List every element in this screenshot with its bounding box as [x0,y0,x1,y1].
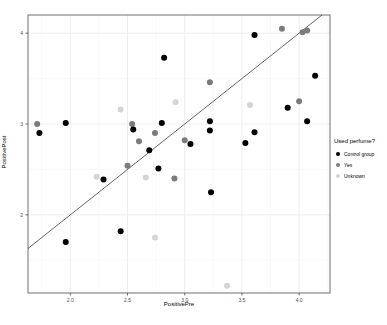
data-point [312,73,318,79]
data-point [118,106,124,112]
x-axis-title: PositivePre [28,301,330,307]
data-point [207,118,213,124]
data-point [143,175,149,181]
data-point [146,147,152,153]
identity-reference-line [28,15,322,248]
data-point [152,235,158,241]
data-point [285,105,291,111]
legend-item-unknown: Unknown [334,170,387,181]
data-point [247,102,253,108]
legend-item-yes: Yes [334,159,387,170]
data-point [125,163,131,169]
data-point [130,126,136,132]
y-tick-label: 2 [20,212,23,218]
yes-key-dot-icon [336,163,340,167]
legend-item-control-group: Control group [334,148,387,159]
data-point [296,98,302,104]
data-point [182,137,188,143]
data-point [224,283,230,289]
data-point [36,130,42,136]
data-point [136,138,142,144]
data-point [118,228,124,234]
data-point [304,118,310,124]
data-point [173,99,179,105]
data-point [207,127,213,133]
data-point [101,176,107,182]
data-point [242,140,248,146]
data-point [152,130,158,136]
data-point [187,141,193,147]
scatter-plot-figure: 2.02.53.03.54.0234 PositivePre PositiveP… [0,0,387,325]
data-point [208,189,214,195]
data-point [252,129,258,135]
control-group-key-dot-icon [336,152,340,156]
legend-item-label: Unknown [344,173,365,179]
data-point [207,79,213,85]
data-point [171,176,177,182]
data-point [155,166,161,172]
data-point [63,239,69,245]
data-point [34,121,40,127]
data-point [63,120,69,126]
data-point [129,121,135,127]
unknown-key-dot-icon [336,174,340,178]
data-point [304,27,310,33]
data-point [94,174,100,180]
y-tick-label: 4 [20,30,23,36]
data-point [252,32,258,38]
data-point [161,55,167,61]
legend-item-label: Control group [344,151,374,157]
panel-border [28,15,330,293]
y-tick-label: 3 [20,121,23,127]
data-point [279,26,285,32]
scatter-plot-canvas: 2.02.53.03.54.0234 [0,0,387,325]
legend-item-label: Yes [344,162,352,168]
legend-title: Used perfume? [334,138,387,144]
legend: Used perfume? Control group Yes Unknown [334,138,387,181]
y-axis-title: PositivePost [1,82,7,222]
data-point [159,120,165,126]
